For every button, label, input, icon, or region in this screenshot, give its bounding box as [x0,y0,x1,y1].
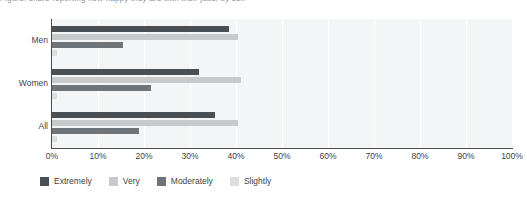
legend-swatch-icon [230,177,239,186]
x-axis-line [51,148,513,149]
bar [52,26,229,32]
legend-label: Slightly [244,176,271,186]
bar [52,128,139,134]
x-tick-label: 30% [181,151,198,161]
legend-item[interactable]: Extremely [40,176,92,186]
x-tick-label: 0% [46,151,58,161]
legend-label: Very [123,176,140,186]
chart-legend: ExtremelyVeryModeratelySlightly [40,176,288,186]
x-axis-tick-labels: 0%10%20%30%40%50%60%70%80%90%100% [52,151,512,165]
legend-label: Moderately [171,176,213,186]
x-tick-label: 40% [227,151,244,161]
bar [52,85,151,91]
bar [52,77,241,83]
legend-item[interactable]: Slightly [230,176,271,186]
legend-item[interactable]: Very [109,176,140,186]
bar-chart: Figure: share reporting how happy they a… [0,0,527,199]
gridline [512,19,513,148]
bar [52,120,238,126]
legend-swatch-icon [157,177,166,186]
bar [52,136,57,142]
category-label: Women [4,78,48,88]
bars-layer [52,19,512,148]
bar [52,50,57,56]
x-tick-label: 60% [319,151,336,161]
legend-swatch-icon [109,177,118,186]
category-axis-labels: MenWomenAll [0,19,48,148]
bar [52,69,199,75]
bar [52,112,215,118]
x-tick-label: 50% [273,151,290,161]
x-tick-label: 10% [89,151,106,161]
x-tick-label: 20% [135,151,152,161]
legend-label: Extremely [54,176,92,186]
category-label: Men [4,35,48,45]
x-tick-label: 90% [457,151,474,161]
bar [52,93,57,99]
legend-item[interactable]: Moderately [157,176,213,186]
category-label: All [4,121,48,131]
x-tick-label: 70% [365,151,382,161]
x-tick-label: 100% [501,151,523,161]
bar [52,34,238,40]
x-tick-label: 80% [411,151,428,161]
bar [52,42,123,48]
figure-caption: Figure: share reporting how happy they a… [0,0,527,7]
legend-swatch-icon [40,177,49,186]
